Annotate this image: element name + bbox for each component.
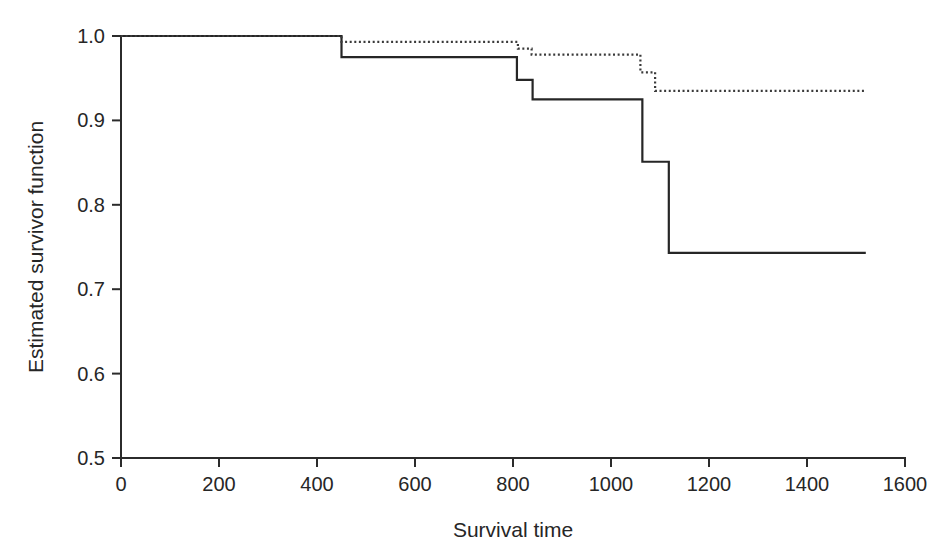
x-axis-ticks: [121, 458, 905, 467]
x-tick-label: 1200: [687, 473, 732, 495]
x-axis: 02004006008001000120014001600: [115, 458, 927, 495]
y-axis-ticks: [112, 36, 121, 458]
x-tick-label: 1600: [883, 473, 928, 495]
survival-curve-solid: [121, 36, 866, 253]
survival-curve-chart: 0.50.60.70.80.91.0 020040060080010001200…: [0, 0, 947, 557]
x-tick-label: 400: [300, 473, 333, 495]
x-tick-label: 600: [398, 473, 431, 495]
x-axis-title: Survival time: [453, 518, 573, 541]
x-tick-label: 1000: [589, 473, 634, 495]
x-tick-label: 800: [496, 473, 529, 495]
y-tick-label: 0.6: [77, 363, 105, 385]
y-axis: 0.50.60.70.80.91.0: [77, 25, 121, 469]
y-tick-label: 1.0: [77, 25, 105, 47]
survival-curve-dotted: [121, 36, 866, 91]
x-tick-label: 1400: [785, 473, 830, 495]
x-tick-label: 200: [202, 473, 235, 495]
y-axis-tick-labels: 0.50.60.70.80.91.0: [77, 25, 105, 469]
y-tick-label: 0.9: [77, 109, 105, 131]
x-tick-label: 0: [115, 473, 126, 495]
data-series-layer: [121, 36, 866, 253]
y-tick-label: 0.8: [77, 194, 105, 216]
y-tick-label: 0.7: [77, 278, 105, 300]
x-axis-tick-labels: 02004006008001000120014001600: [115, 473, 927, 495]
y-axis-title: Estimated survivor function: [24, 121, 47, 373]
chart-canvas: 0.50.60.70.80.91.0 020040060080010001200…: [0, 0, 947, 557]
y-tick-label: 0.5: [77, 447, 105, 469]
